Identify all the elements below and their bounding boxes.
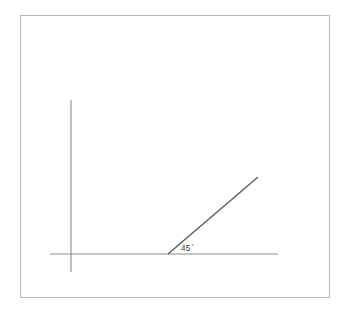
angle-label-value: 45 [181, 244, 191, 253]
degree-symbol-icon: ° [192, 243, 194, 249]
angle-diagram-svg: 45° [0, 0, 346, 320]
outer-border-frame [21, 16, 330, 298]
figure-canvas: 45° [0, 0, 346, 320]
